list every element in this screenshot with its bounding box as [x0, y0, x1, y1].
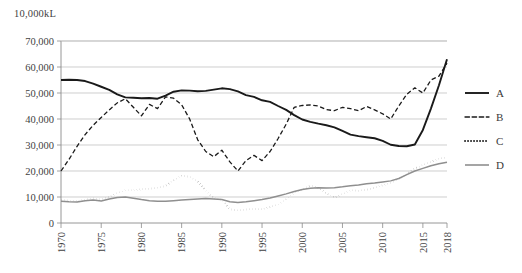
axis-lines: [61, 41, 447, 223]
y-tick-label: 30,000: [25, 140, 54, 151]
legend-label-B: B: [496, 111, 503, 123]
y-tick-label: 40,000: [25, 114, 54, 125]
x-tick-label: 1980: [136, 232, 147, 253]
y-tick-label: 0: [49, 218, 54, 229]
gridlines: [61, 41, 447, 197]
plot-area: 010,00020,00030,00040,00050,00060,00070,…: [0, 0, 522, 273]
y-tick-label: 10,000: [25, 192, 54, 203]
x-tick-label: 2005: [337, 232, 348, 253]
legend-label-D: D: [496, 159, 504, 171]
legend-label-C: C: [496, 135, 503, 147]
x-tick-label: 1990: [217, 232, 228, 253]
y-axis-ticks: 010,00020,00030,00040,00050,00060,00070,…: [25, 36, 61, 229]
y-tick-label: 70,000: [25, 36, 54, 47]
y-tick-label: 20,000: [25, 166, 54, 177]
data-series: [61, 59, 447, 210]
series-line-D: [61, 162, 447, 202]
x-tick-label: 2015: [418, 232, 429, 253]
x-tick-label: 2018: [442, 232, 453, 253]
series-line-B: [61, 63, 447, 171]
x-tick-label: 1970: [56, 232, 67, 253]
y-tick-label: 50,000: [25, 88, 54, 99]
x-tick-label: 2000: [297, 232, 308, 253]
chart-legend: ABCD: [465, 87, 504, 171]
y-tick-label: 60,000: [25, 62, 54, 73]
chart-root: 10,000kL 010,00020,00030,00040,00050,000…: [0, 0, 522, 273]
x-tick-label: 1985: [176, 232, 187, 253]
line-chart-svg: 010,00020,00030,00040,00050,00060,00070,…: [0, 0, 522, 273]
x-tick-label: 1995: [257, 232, 268, 253]
x-tick-label: 2010: [377, 232, 388, 253]
x-axis-ticks: 1970197519801985199019952000200520102015…: [56, 223, 453, 253]
legend-label-A: A: [496, 87, 504, 99]
series-line-A: [61, 59, 447, 146]
x-tick-label: 1975: [96, 232, 107, 253]
series-line-C: [61, 157, 447, 210]
